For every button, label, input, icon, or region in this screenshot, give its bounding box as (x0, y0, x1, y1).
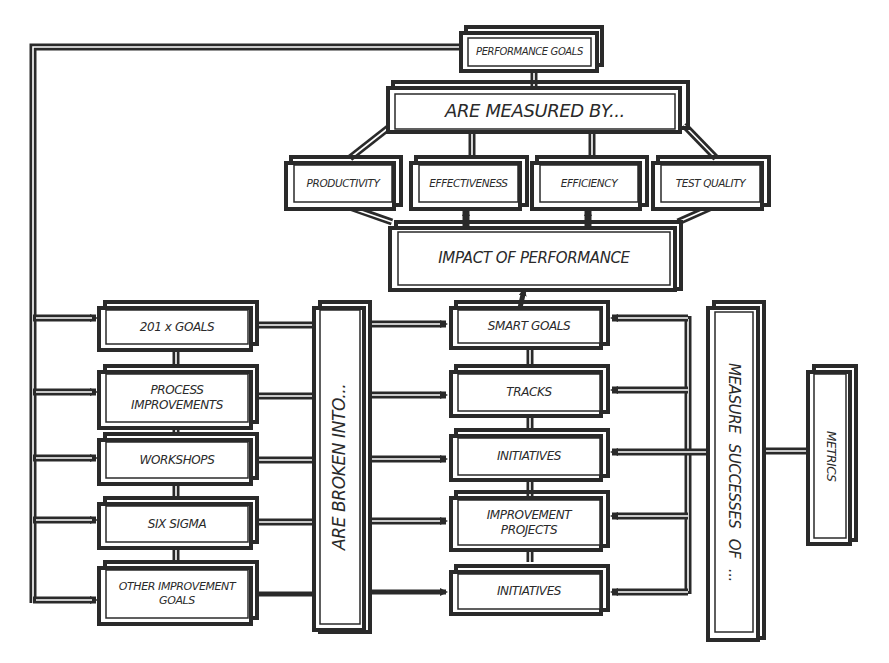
node-are-measured-by: ARE MEASURED BY... (395, 94, 675, 129)
node-label: SMART GOALS (488, 319, 571, 334)
node-performance-goals: PERFORMANCE GOALS (468, 38, 591, 66)
node-label: IMPACT OF PERFORMANCE (438, 249, 629, 268)
node-test-quality: TEST QUALITY (661, 165, 760, 202)
node-label: SIX SIGMA (148, 517, 207, 532)
node-metrics: METRICS (814, 374, 846, 538)
node-tracks: TRACKS (458, 374, 600, 411)
node-smart-goals: SMART GOALS (458, 310, 600, 343)
node-six-sigma: SIX SIGMA (106, 506, 248, 542)
node-label: MEASURE SUCCESSES OF ... (725, 363, 744, 582)
node-process-improvements: PROCESS IMPROVEMENTS (106, 374, 248, 422)
node-label: PRODUCTIVITY (307, 177, 380, 190)
node-label: INITIATIVES (497, 584, 561, 599)
node-other-improvement-goals: OTHER IMPROVEMENT GOALS (106, 570, 248, 618)
node-label: TEST QUALITY (676, 177, 746, 190)
node-are-broken-into: ARE BROKEN INTO... (320, 310, 360, 624)
node-label: EFFICIENCY (561, 177, 617, 190)
node-label: 201 x GOALS (140, 320, 215, 335)
node-label: EFFECTIVENESS (429, 177, 507, 190)
node-label: OTHER IMPROVEMENT GOALS (110, 580, 244, 608)
node-label: ARE MEASURED BY... (445, 100, 625, 123)
node-improvement-projects: IMPROVEMENT PROJECTS (458, 500, 600, 545)
node-efficiency: EFFICIENCY (540, 165, 638, 202)
node-workshops: WORKSHOPS (106, 442, 248, 478)
node-label: ARE BROKEN INTO... (329, 384, 350, 550)
node-label: IMPROVEMENT PROJECTS (474, 508, 584, 538)
node-effectiveness: EFFECTIVENESS (419, 165, 518, 202)
node-201x-goals: 201 x GOALS (106, 310, 248, 344)
node-initiatives: INITIATIVES (458, 438, 600, 475)
node-label: PERFORMANCE GOALS (476, 46, 583, 59)
node-label: TRACKS (506, 385, 551, 400)
node-label: METRICS (823, 431, 838, 482)
node-label: INITIATIVES (497, 449, 561, 464)
node-impact-of-performance: IMPACT OF PERFORMANCE (398, 232, 670, 285)
node-measure-successes-of: MEASURE SUCCESSES OF ... (715, 312, 753, 632)
node-label: WORKSHOPS (140, 453, 215, 468)
node-productivity: PRODUCTIVITY (294, 165, 392, 202)
node-initiatives-2: INITIATIVES (458, 574, 600, 609)
node-label: PROCESS IMPROVEMENTS (120, 383, 234, 413)
